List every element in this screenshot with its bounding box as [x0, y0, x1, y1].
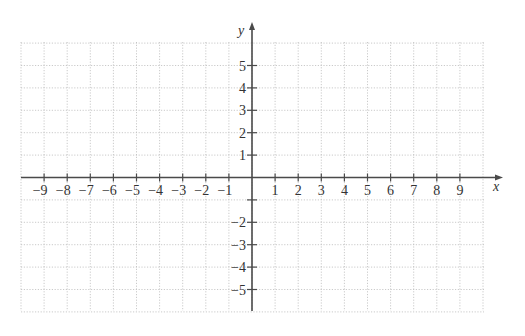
x-tick-label: −5: [125, 183, 140, 198]
y-axis-label: y: [236, 23, 245, 38]
y-tick-label: 3: [239, 103, 246, 118]
x-tick-label: 7: [410, 183, 417, 198]
x-tick-label: −1: [217, 183, 232, 198]
x-tick-label: −2: [194, 183, 209, 198]
y-tick-label: 1: [239, 148, 246, 163]
x-tick-label: 4: [341, 183, 348, 198]
y-tick-label: −4: [231, 260, 246, 275]
x-tick-label: −6: [102, 183, 117, 198]
x-tick-label: −9: [33, 183, 48, 198]
y-tick-label: 4: [239, 81, 246, 96]
y-tick-label: 5: [239, 59, 246, 74]
y-tick-label: 2: [239, 126, 246, 141]
x-tick-label: 1: [272, 183, 279, 198]
x-tick-label: 5: [364, 183, 371, 198]
x-tick-label: 6: [387, 183, 394, 198]
x-tick-label: 3: [318, 183, 325, 198]
y-axis-arrow-icon: [249, 22, 255, 30]
y-tick-label: −2: [231, 215, 246, 230]
x-tick-label: −8: [56, 183, 71, 198]
coordinate-plane: −9−8−7−6−5−4−3−2−112345678954321−2−3−4−5…: [0, 0, 525, 336]
x-tick-label: −7: [79, 183, 94, 198]
x-tick-label: 9: [456, 183, 463, 198]
x-tick-label: 2: [295, 183, 302, 198]
x-tick-label: −3: [171, 183, 186, 198]
x-tick-label: 8: [433, 183, 440, 198]
x-axis-label: x: [492, 179, 500, 194]
y-tick-label: −3: [231, 238, 246, 253]
y-tick-label: −5: [231, 283, 246, 298]
x-tick-label: −4: [148, 183, 163, 198]
